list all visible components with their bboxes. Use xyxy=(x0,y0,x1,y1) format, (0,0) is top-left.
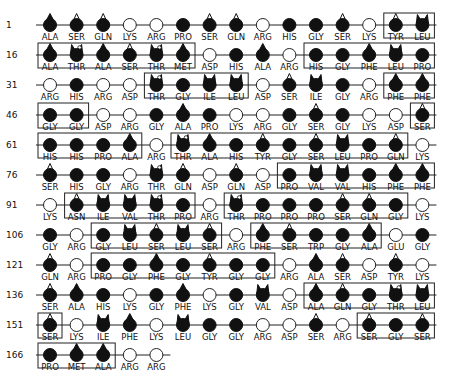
sequence-row: 76SERHISGLYARGTHRGLNASPGLNASPPROVALVALHI… xyxy=(6,163,436,192)
residue-bead-asp: ASP xyxy=(388,109,404,133)
filled-circle-icon xyxy=(230,49,243,62)
residue-bead-ala: ALA xyxy=(95,44,112,73)
residue-label: PHE xyxy=(387,182,404,192)
row-number: 76 xyxy=(6,170,18,180)
residue-label: ALA xyxy=(308,302,325,312)
filled-circle-icon xyxy=(97,19,110,32)
filled-circle-icon xyxy=(97,199,110,212)
open-circle-icon xyxy=(336,319,349,332)
filled-circle-icon xyxy=(150,169,163,182)
filled-circle-icon xyxy=(389,49,402,62)
filled-circle-icon xyxy=(256,259,269,272)
open-circle-icon xyxy=(203,199,216,212)
filled-circle-icon xyxy=(416,169,429,182)
filled-circle-icon xyxy=(336,49,349,62)
filled-circle-icon xyxy=(310,169,323,182)
residue-bead-ser: SER xyxy=(148,224,165,253)
filled-circle-icon xyxy=(44,19,57,32)
residue-bead-asn: ASN xyxy=(68,194,86,223)
residue-label: SER xyxy=(121,62,138,72)
open-circle-icon xyxy=(416,199,429,212)
residue-bead-phe: PHE xyxy=(361,44,378,73)
filled-circle-icon xyxy=(283,19,296,32)
residue-label: LEU xyxy=(122,242,138,252)
residue-label: SER xyxy=(42,332,59,342)
residue-bead-phe: PHE xyxy=(387,164,404,193)
filled-circle-icon xyxy=(283,79,296,92)
filled-circle-icon xyxy=(283,139,296,152)
open-circle-icon xyxy=(389,109,402,122)
residue-bead-asp: ASP xyxy=(281,319,297,343)
open-circle-icon xyxy=(123,289,136,302)
residue-bead-ser: SER xyxy=(281,74,298,103)
residue-label: ARG xyxy=(147,152,165,162)
residue-bead-gln: GLN xyxy=(174,164,192,193)
residue-bead-pro: PRO xyxy=(201,109,219,133)
residue-bead-gln: GLN xyxy=(334,284,352,313)
residue-label: LEU xyxy=(334,152,350,162)
residue-bead-gly: GLY xyxy=(282,139,298,163)
row-number: 16 xyxy=(6,50,18,60)
filled-circle-icon xyxy=(177,259,190,272)
filled-circle-icon xyxy=(123,229,136,242)
residue-label: LYS xyxy=(229,122,243,132)
residue-label: ALA xyxy=(122,152,139,162)
residue-bead-arg: ARG xyxy=(254,319,272,343)
open-circle-icon xyxy=(230,109,243,122)
filled-circle-icon xyxy=(70,79,83,92)
filled-circle-icon xyxy=(203,319,216,332)
residue-bead-ile: ILE xyxy=(203,75,216,103)
residue-bead-phe: PHE xyxy=(148,254,165,283)
filled-circle-icon xyxy=(177,49,190,62)
residue-label: ARG xyxy=(227,242,245,252)
residue-label: GLY xyxy=(388,332,404,342)
residue-label: LYS xyxy=(415,212,429,222)
residue-bead-arg: ARG xyxy=(200,199,218,223)
residue-label: GLY xyxy=(335,62,351,72)
residue-bead-ala: ALA xyxy=(308,284,325,313)
residue-label: GLY xyxy=(335,92,351,102)
residue-bead-pro: PRO xyxy=(281,199,299,223)
residue-bead-gly: GLY xyxy=(255,259,271,283)
open-circle-icon xyxy=(70,319,83,332)
residue-bead-ser: SER xyxy=(68,14,85,43)
sequence-row: 121GLNARGPROGLYPHEGLYTYRGLYGLYARGALASERA… xyxy=(6,253,436,282)
residue-bead-asp: ASP xyxy=(201,49,217,73)
residue-bead-arg: ARG xyxy=(254,19,272,43)
filled-circle-icon xyxy=(123,259,136,272)
residue-label: HIS xyxy=(69,152,83,162)
residue-label: TYR xyxy=(254,152,271,162)
filled-circle-icon xyxy=(123,319,136,332)
residue-label: HIS xyxy=(43,152,57,162)
residue-bead-pro: PRO xyxy=(254,199,272,223)
filled-circle-icon xyxy=(150,79,163,92)
residue-label: GLY xyxy=(122,272,138,282)
open-circle-icon xyxy=(283,259,296,272)
filled-circle-icon xyxy=(70,109,83,122)
residue-bead-ser: SER xyxy=(414,104,431,133)
row-number: 121 xyxy=(6,260,23,270)
residue-label: TYR xyxy=(387,32,404,42)
residue-label: PRO xyxy=(174,32,192,42)
filled-circle-icon xyxy=(256,289,269,302)
residue-label: ASP xyxy=(201,62,217,72)
residue-bead-gly: GLY xyxy=(202,319,218,343)
filled-circle-icon xyxy=(230,289,243,302)
residue-label: ARG xyxy=(254,122,272,132)
residue-label: PHE xyxy=(387,92,404,102)
open-circle-icon xyxy=(150,19,163,32)
residue-bead-arg: ARG xyxy=(227,229,245,253)
residue-label: SER xyxy=(361,332,378,342)
residue-label: ILE xyxy=(97,332,110,342)
residue-label: GLN xyxy=(360,212,378,222)
residue-bead-thr: THR xyxy=(386,285,405,313)
filled-circle-icon xyxy=(336,79,349,92)
residue-bead-his: HIS xyxy=(229,49,243,73)
residue-label: PHE xyxy=(121,332,138,342)
residue-bead-gly: GLY xyxy=(69,109,85,133)
residue-bead-gly: GLY xyxy=(415,229,431,253)
residue-bead-gly: GLY xyxy=(42,229,58,253)
residue-bead-his: HIS xyxy=(229,139,243,163)
filled-circle-icon xyxy=(230,319,243,332)
residue-label: HIS xyxy=(69,182,83,192)
